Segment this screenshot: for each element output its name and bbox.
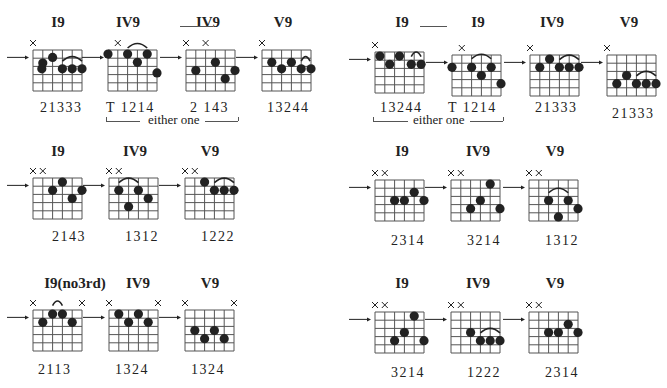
chord-diagram [0, 0, 667, 388]
fingering-label: 2314 [545, 365, 579, 381]
arrow-right-icon [503, 317, 525, 321]
muted-string-icon [536, 302, 542, 308]
bracket-tick [503, 117, 504, 121]
bracket-line [470, 121, 503, 122]
either-one-label: either one [413, 112, 465, 128]
bracket-tick [238, 117, 239, 121]
finger-dot-icon [554, 328, 563, 337]
either-one-label: either one [148, 112, 200, 128]
bracket-tick [373, 117, 374, 121]
finger-dot-icon [544, 328, 553, 337]
bracket-line [373, 121, 408, 122]
muted-string-icon [526, 302, 532, 308]
bracket-line [205, 121, 238, 122]
equivalence-line [180, 26, 213, 27]
equivalence-line [420, 26, 447, 27]
bracket-tick [106, 117, 107, 121]
finger-dot-icon [573, 328, 582, 337]
finger-dot-icon [564, 320, 573, 329]
bracket-line [106, 121, 140, 122]
